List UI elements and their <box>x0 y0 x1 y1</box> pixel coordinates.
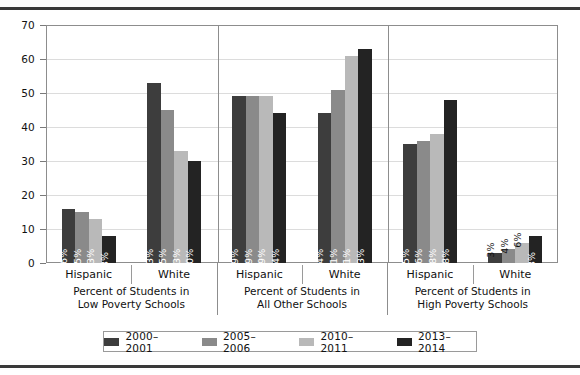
bar: 8% <box>102 236 116 263</box>
bars-layer: 16%15%13%8%53%45%33%30%49%49%49%44%44%51… <box>46 25 558 263</box>
legend-label: 2010–2011 <box>320 330 378 354</box>
bar: 3% <box>488 253 502 263</box>
category-label: White <box>302 263 387 285</box>
bar: 48% <box>444 100 458 263</box>
category-label: White <box>473 263 558 285</box>
y-axis-tick-label: 60 <box>21 53 35 65</box>
legend-label: 2000–2001 <box>125 330 183 354</box>
legend-swatch <box>397 338 412 346</box>
bar-value-label: 4% <box>499 239 509 254</box>
category-label-band: HispanicWhitePercent of Students inLow P… <box>46 263 558 309</box>
bar: 44% <box>318 113 332 263</box>
group-band-separator <box>387 263 388 315</box>
group-title-line2: Low Poverty Schools <box>78 298 185 311</box>
legend-swatch <box>104 338 119 346</box>
y-axis-tick-label: 10 <box>21 223 35 235</box>
bar-value-label: 6% <box>513 232 523 247</box>
top-divider-rule <box>0 7 580 10</box>
group-title-line1: Percent of Students in <box>415 285 531 298</box>
y-axis-tick-label: 40 <box>21 121 35 133</box>
legend-label: 2005–2006 <box>223 330 281 354</box>
category-divider <box>302 265 303 284</box>
group-title: Percent of Students inAll Other Schools <box>217 285 388 315</box>
bar: 53% <box>147 83 161 263</box>
legend-item[interactable]: 2005–2006 <box>202 330 282 354</box>
group-title: Percent of Students inLow Poverty School… <box>46 285 217 315</box>
legend-item[interactable]: 2013–2014 <box>397 330 477 354</box>
bar: 8% <box>529 236 543 263</box>
bar: 4% <box>502 249 516 263</box>
group-title-line2: All Other Schools <box>257 298 347 311</box>
category-divider <box>473 265 474 284</box>
y-axis-tick-label: 50 <box>21 87 35 99</box>
y-axis-tick-label: 0 <box>28 257 35 269</box>
bar: 49% <box>246 96 260 263</box>
category-label: White <box>131 263 216 285</box>
bar-value-label: 3% <box>486 242 496 257</box>
group-title-line1: Percent of Students in <box>73 285 189 298</box>
y-axis-tick-label: 70 <box>21 19 35 31</box>
group-title: Percent of Students inHigh Poverty Schoo… <box>387 285 558 315</box>
bar: 51% <box>331 90 345 263</box>
y-axis: 010203040506070 <box>0 25 46 263</box>
category-label: Hispanic <box>387 263 472 285</box>
bar: 30% <box>188 161 202 263</box>
group-title-line1: Percent of Students in <box>244 285 360 298</box>
legend-label: 2013–2014 <box>418 330 476 354</box>
category-label: Hispanic <box>217 263 302 285</box>
group-band-separator <box>217 263 218 315</box>
bar: 61% <box>345 56 359 263</box>
y-axis-tick-label: 20 <box>21 189 35 201</box>
bar: 49% <box>259 96 273 263</box>
legend-swatch <box>299 338 314 346</box>
chart-page: 010203040506070 16%15%13%8%53%45%33%30%4… <box>0 0 580 375</box>
category-label: Hispanic <box>46 263 131 285</box>
y-axis-tick-label: 30 <box>21 155 35 167</box>
bar: 35% <box>403 144 417 263</box>
bar: 44% <box>273 113 287 263</box>
bottom-divider-rule <box>0 365 580 368</box>
group-title-line2: High Poverty Schools <box>417 298 528 311</box>
bar: 63% <box>358 49 372 263</box>
legend-item[interactable]: 2000–2001 <box>104 330 184 354</box>
bar: 49% <box>232 96 246 263</box>
legend-swatch <box>202 338 217 346</box>
chart-legend: 2000–20012005–20062010–20112013–2014 <box>103 331 477 352</box>
bar: 33% <box>174 151 188 263</box>
bar: 38% <box>430 134 444 263</box>
bar: 36% <box>417 141 431 263</box>
legend-item[interactable]: 2010–2011 <box>299 330 379 354</box>
bar: 45% <box>161 110 175 263</box>
category-divider <box>131 265 132 284</box>
